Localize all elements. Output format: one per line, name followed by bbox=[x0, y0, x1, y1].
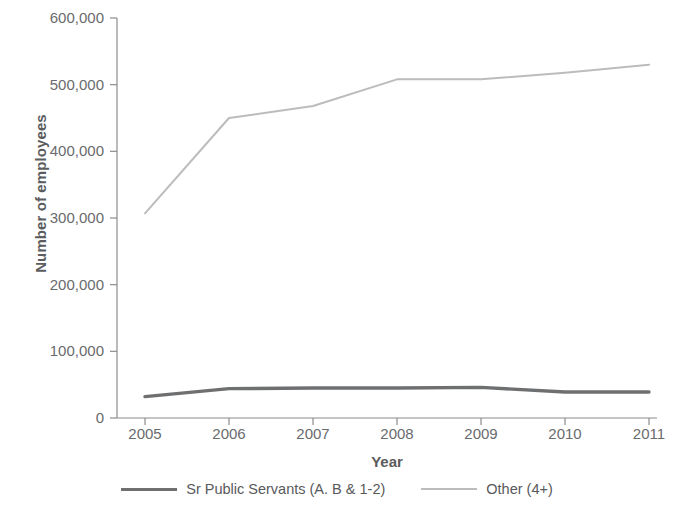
x-axis-ticks bbox=[145, 418, 649, 425]
x-axis-tick-label: 2005 bbox=[110, 426, 180, 441]
legend-label: Other (4+) bbox=[486, 482, 552, 497]
chart-legend: Sr Public Servants (A. B & 1-2)Other (4+… bbox=[0, 482, 674, 497]
y-axis-tick-label: 600,000 bbox=[9, 10, 104, 25]
legend-swatch-icon bbox=[421, 488, 477, 490]
series-lines bbox=[145, 65, 649, 397]
x-axis-tick-label: 2006 bbox=[194, 426, 264, 441]
y-axis-tick-label: 500,000 bbox=[9, 77, 104, 92]
y-axis-tick-label: 400,000 bbox=[9, 143, 104, 158]
series-line bbox=[145, 65, 649, 214]
series-line bbox=[145, 387, 649, 396]
x-axis-tick-label: 2008 bbox=[362, 426, 432, 441]
y-axis-tick-label: 200,000 bbox=[9, 277, 104, 292]
legend-entry[interactable]: Other (4+) bbox=[421, 482, 552, 497]
x-axis-tick-label: 2009 bbox=[446, 426, 516, 441]
legend-swatch-icon bbox=[121, 488, 177, 491]
y-axis-ticks bbox=[110, 18, 117, 418]
x-axis-tick-label: 2011 bbox=[614, 426, 674, 441]
x-axis-title: Year bbox=[117, 453, 657, 470]
x-axis-tick-label: 2007 bbox=[278, 426, 348, 441]
x-axis-tick-label: 2010 bbox=[530, 426, 600, 441]
y-axis-tick-label: 0 bbox=[9, 410, 104, 425]
legend-label: Sr Public Servants (A. B & 1-2) bbox=[186, 482, 385, 497]
line-chart: Number of employees 0100,000200,000300,0… bbox=[0, 0, 674, 505]
legend-entry[interactable]: Sr Public Servants (A. B & 1-2) bbox=[121, 482, 385, 497]
y-axis-tick-label: 300,000 bbox=[9, 210, 104, 225]
y-axis-tick-label: 100,000 bbox=[9, 343, 104, 358]
